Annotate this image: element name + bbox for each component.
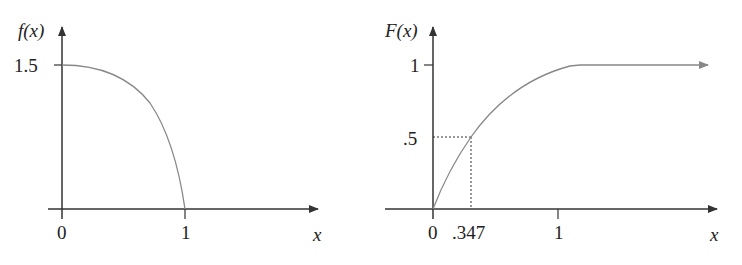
right-xtick-label-0: 0	[428, 223, 438, 242]
cdf-curve	[433, 65, 708, 209]
right-ytick-label-1: 1	[410, 56, 420, 75]
right-xlabel: x	[710, 225, 718, 244]
pdf-chart	[48, 27, 318, 219]
right-xtick-label-1: 1	[554, 223, 564, 242]
pdf-curve	[62, 65, 185, 209]
left-xtick-label-0: 0	[57, 223, 67, 242]
left-xlabel: x	[313, 225, 321, 244]
right-ylabel: F(x)	[385, 21, 418, 40]
left-xtick-label-1: 1	[181, 223, 191, 242]
charts-canvas	[0, 0, 742, 265]
cdf-chart	[385, 27, 717, 219]
right-xtick-label-347: .347	[452, 223, 485, 242]
right-ytick-label-half: .5	[403, 129, 417, 148]
left-ylabel: f(x)	[18, 21, 44, 40]
left-ytick-label: 1.5	[14, 56, 38, 75]
